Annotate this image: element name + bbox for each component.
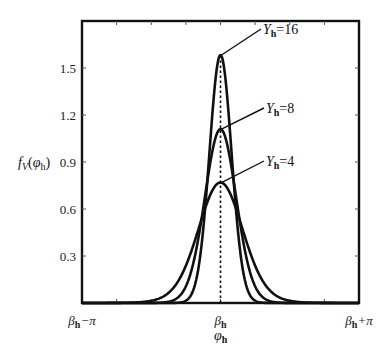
x-tick-label: βh+π: [344, 313, 373, 330]
y-axis-tick-labels: 0.30.60.91.21.5: [60, 61, 77, 264]
y-axis-label: fV(φh): [18, 155, 50, 172]
y-tick-label: 0.6: [60, 202, 77, 217]
series-label: Yh=4: [266, 154, 294, 171]
series-annotations: Yh=16Yh=8Yh=4: [263, 22, 298, 171]
x-axis-label: φh: [214, 328, 228, 345]
series-label: Yh=16: [263, 22, 298, 39]
leader-line: [222, 29, 262, 55]
y-tick-label: 1.2: [60, 108, 76, 123]
y-tick-label: 1.5: [60, 61, 76, 76]
y-tick-label: 0.3: [60, 249, 76, 264]
leader-line: [222, 161, 265, 183]
chart: 0.30.60.91.21.5 βh−πβhβh+π Yh=16Yh=8Yh=4…: [0, 0, 389, 354]
x-tick-label: βh−π: [67, 313, 96, 330]
series-label: Yh=8: [266, 101, 294, 118]
y-tick-label: 0.9: [60, 155, 76, 170]
